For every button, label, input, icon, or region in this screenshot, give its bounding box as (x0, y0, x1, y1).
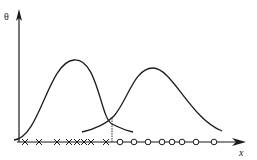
diagram-canvas: θ x (0, 0, 257, 160)
left-distribution-curve (14, 60, 133, 140)
x-axis-label: x (238, 147, 244, 158)
right-distribution-curve (82, 68, 222, 132)
y-axis-label: θ (4, 11, 9, 22)
